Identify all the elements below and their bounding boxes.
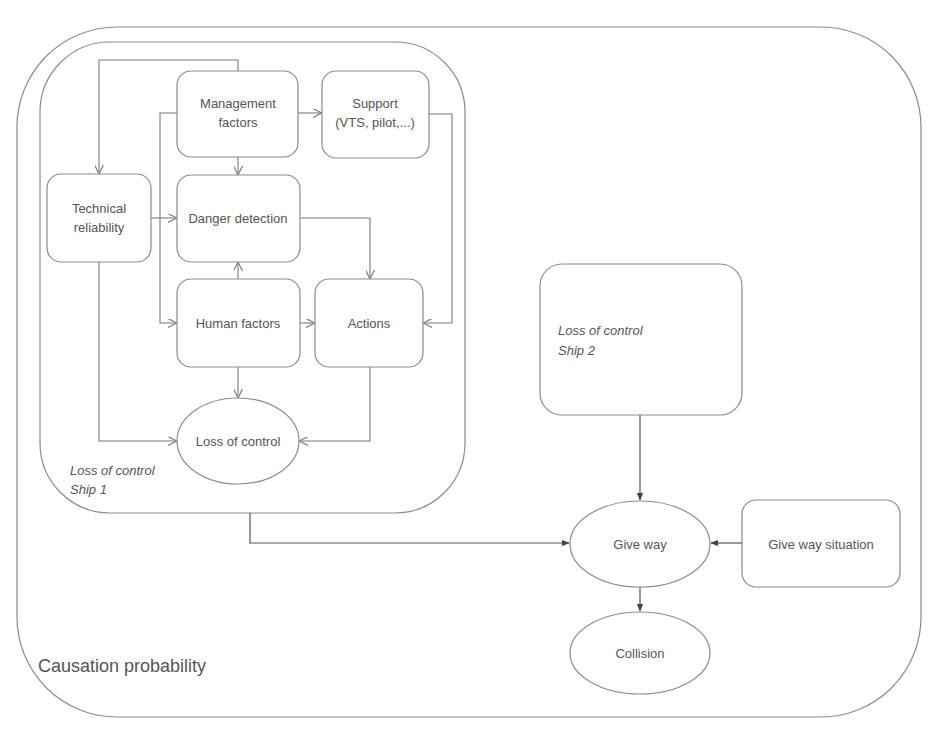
causation-probability-container xyxy=(17,27,921,717)
ship2-label-line2: Ship 2 xyxy=(558,343,596,358)
actions-label: Actions xyxy=(348,316,391,331)
give-way-label: Give way xyxy=(613,537,667,552)
node-technical-reliability: Technical reliability xyxy=(47,174,151,262)
support-line2: (VTS, pilot,...) xyxy=(335,115,414,130)
edge-actions-loss xyxy=(300,367,370,441)
edge-technical-loss xyxy=(99,262,176,441)
loss-of-control-label: Loss of control xyxy=(196,434,281,449)
technical-line2: reliability xyxy=(74,220,125,235)
ship1-label-line1: Loss of control xyxy=(70,463,156,478)
management-line2: factors xyxy=(218,115,258,130)
collision-label: Collision xyxy=(615,646,664,661)
danger-label: Danger detection xyxy=(188,211,287,226)
edge-danger-actions xyxy=(300,218,370,278)
technical-line1: Technical xyxy=(72,201,126,216)
node-human-factors: Human factors xyxy=(177,279,300,367)
give-way-situation-label: Give way situation xyxy=(768,537,874,552)
human-label: Human factors xyxy=(196,316,281,331)
node-give-way: Give way xyxy=(570,501,710,587)
node-support: Support (VTS, pilot,...) xyxy=(322,71,429,158)
support-line1: Support xyxy=(352,96,398,111)
node-loss-of-control: Loss of control xyxy=(177,398,299,484)
node-actions: Actions xyxy=(315,279,423,367)
node-give-way-situation: Give way situation xyxy=(742,500,900,587)
management-line1: Management xyxy=(200,96,276,111)
node-management-factors: Management factors xyxy=(177,71,298,157)
causation-probability-label: Causation probability xyxy=(38,656,206,676)
ship2-box: Loss of control Ship 2 xyxy=(540,264,742,415)
ship2-label-line1: Loss of control xyxy=(558,323,644,338)
ship1-label-line2: Ship 1 xyxy=(70,482,107,497)
node-collision: Collision xyxy=(570,612,710,694)
node-danger-detection: Danger detection xyxy=(177,175,300,262)
causation-diagram: Causation probability Loss of control Sh… xyxy=(0,0,938,732)
edge-ship1-giveway xyxy=(250,513,569,543)
